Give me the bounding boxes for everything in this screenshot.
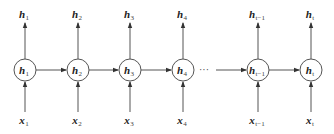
- output-label: h1: [19, 8, 30, 22]
- rnn-diagram: h1h1x1h2h2x2h3h3x3h4h4x4ht−1ht−1xt−1htht…: [0, 0, 334, 134]
- output-label: ht: [306, 8, 315, 22]
- diagram-root: h1h1x1h2h2x2h3h3x3h4h4x4ht−1ht−1xt−1htht…: [14, 8, 322, 128]
- rnn-cell-h1: h1h1x1: [14, 8, 36, 128]
- rnn-cell-h3: h3h3x3: [119, 8, 141, 128]
- input-label: xt−1: [248, 114, 265, 128]
- output-label: ht−1: [249, 8, 266, 22]
- input-label: x3: [123, 114, 134, 128]
- input-label: x1: [18, 114, 29, 128]
- input-label: x2: [71, 114, 82, 128]
- output-label: h4: [177, 8, 188, 22]
- ellipsis: ···: [199, 64, 209, 75]
- input-label: xt: [305, 114, 314, 128]
- rnn-cell-ht: hthtxt: [300, 8, 322, 128]
- input-label: x4: [176, 114, 187, 128]
- rnn-cell-ht-1: ht−1ht−1xt−1: [247, 8, 269, 128]
- rnn-cell-h4: h4h4x4: [172, 8, 194, 128]
- output-label: h3: [124, 8, 135, 22]
- output-label: h2: [72, 8, 83, 22]
- rnn-cell-h2: h2h2x2: [67, 8, 89, 128]
